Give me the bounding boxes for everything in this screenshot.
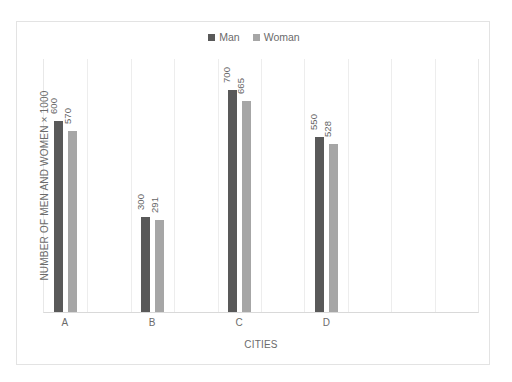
bar-value-label: 570 xyxy=(62,108,73,124)
bar-value-label: 700 xyxy=(221,67,232,83)
bar-wrap: 665 xyxy=(242,101,251,312)
x-tick-label-c: C xyxy=(236,317,243,328)
bar-group: 300291 xyxy=(141,59,165,312)
chart-frame: Man Woman 600570300291700665550528 ABCD … xyxy=(16,21,490,365)
bar-man-c[interactable] xyxy=(228,90,237,312)
bar-groups: 600570300291700665550528 xyxy=(44,59,478,312)
bar-value-label: 665 xyxy=(235,78,246,94)
bar-woman-d[interactable] xyxy=(329,144,338,312)
legend-item-woman[interactable]: Woman xyxy=(253,32,300,43)
legend-swatch-man xyxy=(208,34,215,41)
bar-group: 600570 xyxy=(54,59,78,312)
bar-group: 700665 xyxy=(227,59,251,312)
bar-value-label: 291 xyxy=(149,197,160,213)
bar-value-label: 300 xyxy=(135,194,146,210)
bar-man-a[interactable] xyxy=(54,121,63,312)
bar-man-d[interactable] xyxy=(315,137,324,312)
bar-woman-a[interactable] xyxy=(68,131,77,312)
chart-container: Man Woman 600570300291700665550528 ABCD … xyxy=(0,0,512,382)
bar-wrap: 570 xyxy=(68,131,77,312)
legend-label-man: Man xyxy=(219,32,239,43)
legend-item-man[interactable]: Man xyxy=(208,32,239,43)
bar-wrap: 700 xyxy=(228,90,237,312)
bar-value-label: 550 xyxy=(308,114,319,130)
bar-group: 550528 xyxy=(314,59,338,312)
bar-wrap: 528 xyxy=(329,144,338,312)
x-tick-label-d: D xyxy=(323,317,330,328)
bar-wrap: 291 xyxy=(155,220,164,312)
x-tick-label-b: B xyxy=(149,317,156,328)
bar-wrap: 300 xyxy=(141,217,150,312)
x-axis-title: CITIES xyxy=(43,339,479,350)
bar-wrap: 550 xyxy=(315,137,324,312)
legend-swatch-woman xyxy=(253,34,260,41)
chart-legend: Man Woman xyxy=(17,32,491,43)
bar-man-b[interactable] xyxy=(141,217,150,312)
bar-woman-b[interactable] xyxy=(155,220,164,312)
x-tick-label-a: A xyxy=(61,317,68,328)
plot-area: 600570300291700665550528 xyxy=(43,59,479,313)
bar-woman-c[interactable] xyxy=(242,101,251,312)
x-axis-tick-labels: ABCD xyxy=(43,317,479,335)
y-axis-title: NUMBER OF MEN AND WOMEN × 1000 xyxy=(39,71,50,301)
bar-wrap: 600 xyxy=(54,121,63,312)
bar-value-label: 528 xyxy=(322,121,333,137)
legend-label-woman: Woman xyxy=(264,32,300,43)
